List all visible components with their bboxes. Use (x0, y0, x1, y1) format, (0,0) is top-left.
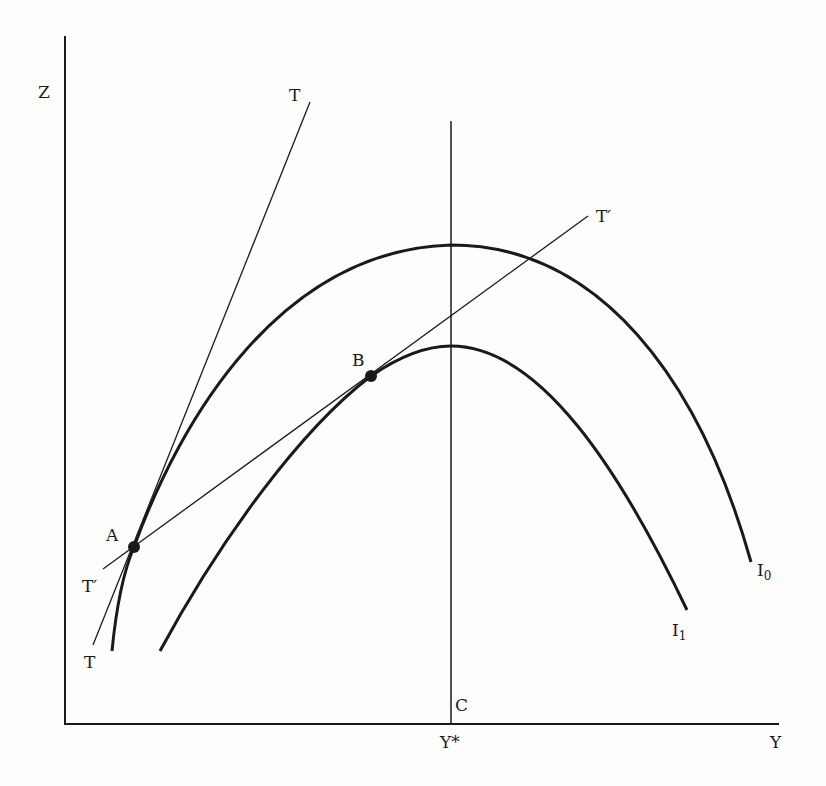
c-label: C (455, 695, 468, 715)
point-a (128, 541, 140, 553)
y-axis-label: Y (769, 732, 782, 752)
t-prime-bottom-label: T′ (82, 576, 97, 596)
i1-label-sub: 1 (679, 629, 687, 643)
i1-label-main: I (672, 620, 679, 640)
diagram-svg: Z Y C Y* T T T′ T′ A B I0 I1 (0, 0, 826, 786)
point-b (365, 370, 377, 382)
indifference-curve-i0 (112, 245, 751, 651)
i0-label: I0 (757, 560, 771, 583)
t-bottom-label: T (84, 652, 96, 672)
diagram-canvas: Z Y C Y* T T T′ T′ A B I0 I1 (0, 0, 826, 786)
tangent-line-t-prime (103, 216, 588, 569)
point-a-label: A (105, 525, 119, 545)
i1-label: I1 (672, 620, 686, 643)
z-axis-label: Z (38, 82, 50, 102)
t-top-label: T (289, 85, 301, 105)
y-star-label: Y* (439, 732, 460, 752)
tangent-line-t (93, 102, 310, 645)
indifference-curve-i1 (160, 346, 687, 651)
t-prime-top-label: T′ (596, 206, 611, 226)
i0-label-sub: 0 (764, 569, 772, 583)
i0-label-main: I (757, 560, 764, 580)
point-b-label: B (352, 350, 365, 370)
